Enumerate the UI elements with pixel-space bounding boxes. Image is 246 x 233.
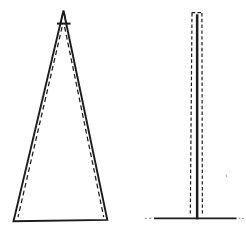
apex-inner-line-right xyxy=(64,14,66,23)
tapered-column-figure xyxy=(14,11,108,222)
stray-speck xyxy=(226,175,227,178)
uniform-mast-figure xyxy=(145,13,244,220)
deflection-dashed-right xyxy=(65,27,104,217)
mast-dashed-outline-right xyxy=(202,13,203,216)
mast-solid-bar xyxy=(196,14,199,219)
apex-inner-line-left xyxy=(61,14,63,23)
tapered-column-outline xyxy=(14,11,108,222)
mast-dashed-outline-left xyxy=(190,13,192,216)
diagram-page xyxy=(0,0,246,233)
deflection-dashed-left xyxy=(18,27,62,217)
column-vs-mast-diagram xyxy=(0,0,246,233)
